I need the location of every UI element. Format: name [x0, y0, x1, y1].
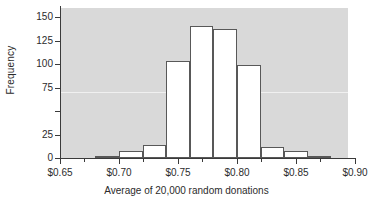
x-tick-label-0-75: $0.75 — [148, 167, 208, 179]
y-tick-label-0: 0 — [23, 153, 53, 163]
y-axis-title: Frequency — [4, 0, 18, 150]
x-tick-label-0-65: $0.65 — [30, 167, 90, 179]
x-tick-mark-0-8 — [237, 159, 238, 164]
x-axis-line — [60, 158, 356, 159]
x-tick-label-0-9: $0.90 — [325, 167, 373, 179]
histogram-bar — [190, 26, 214, 158]
x-tick-mark-0-65 — [60, 159, 61, 164]
y-tick-label-25: 25 — [23, 130, 53, 140]
x-tick-minor-0-87 — [320, 159, 321, 162]
y-tick-label-125: 125 — [23, 36, 53, 46]
histogram-bar — [119, 151, 143, 159]
x-tick-minor-0-67 — [84, 159, 85, 162]
x-tick-label-0-8: $0.80 — [207, 167, 267, 179]
y-tick-label-100: 100 — [23, 59, 53, 69]
plot-area — [61, 8, 348, 158]
x-tick-minor-0-72 — [143, 159, 144, 162]
histogram-bar — [284, 151, 308, 158]
y-tick-label-150: 150 — [23, 12, 53, 22]
histogram-bar — [213, 29, 237, 158]
x-tick-label-0-7: $0.70 — [89, 167, 149, 179]
histogram-bar — [143, 145, 167, 158]
x-tick-label-0-85: $0.85 — [266, 167, 326, 179]
x-axis-title: Average of 20,000 random donations — [0, 185, 373, 197]
x-tick-minor-0-82 — [261, 159, 262, 162]
x-tick-mark-0-75 — [178, 159, 179, 164]
histogram-bar — [95, 156, 119, 158]
histogram-figure: Frequency 15012510075250 $0.65$0.70$0.75… — [0, 0, 373, 220]
x-tick-mark-0-7 — [119, 159, 120, 164]
x-tick-minor-0-77 — [202, 159, 203, 162]
x-tick-mark-0-9 — [355, 159, 356, 164]
histogram-bar — [237, 65, 261, 158]
histogram-bar — [308, 156, 332, 158]
histogram-bar — [166, 61, 190, 159]
y-tick-label-75: 75 — [23, 83, 53, 93]
x-tick-mark-0-85 — [296, 159, 297, 164]
histogram-bar — [261, 147, 285, 158]
